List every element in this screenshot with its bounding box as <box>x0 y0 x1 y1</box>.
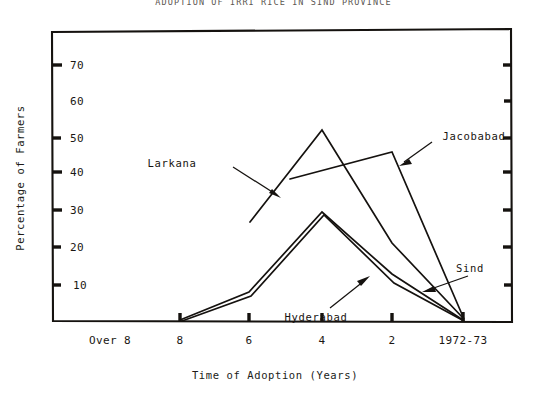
annotation-sind: Sind <box>422 262 484 292</box>
series-line-hyderabad <box>182 215 464 321</box>
x-tick-label-1972-73: 1972-73 <box>438 334 487 347</box>
x-axis-title: Time of Adoption (Years) <box>192 369 358 381</box>
plot-frame <box>52 29 512 322</box>
annotation-label-hyderabad: Hyderabad <box>284 311 347 323</box>
x-tick-label-2: 2 <box>388 334 395 347</box>
annotation-jacobabad: Jacobabad <box>399 130 506 166</box>
chart-figure: ADOPTION OF IRRI RICE IN SIND PROVINCE <box>0 0 547 406</box>
chart-canvas: 70 60 50 40 30 20 10 Over 8 8 6 4 2 1972… <box>0 0 547 406</box>
y-axis-title: Percentage of Farmers <box>14 105 26 250</box>
y-tick-labels: 70 60 50 40 30 20 10 <box>70 59 87 292</box>
arrowhead-sind <box>422 286 436 292</box>
arrowhead-jacobabad <box>399 159 412 166</box>
y-tick-label-40: 40 <box>70 166 84 179</box>
y-tick-label-50: 50 <box>70 132 84 145</box>
annotation-hyderabad: Hyderabad <box>284 276 370 323</box>
annotation-label-larkana: Larkana <box>147 157 196 169</box>
y-tick-label-20: 20 <box>70 241 84 254</box>
y-tick-label-30: 30 <box>70 204 84 217</box>
y-tick-label-70: 70 <box>70 59 84 72</box>
series-line-sind <box>180 212 463 320</box>
y-tick-label-60: 60 <box>70 95 84 108</box>
x-tick-labels: Over 8 8 6 4 2 1972-73 <box>89 334 488 347</box>
annotation-label-jacobabad: Jacobabad <box>442 130 505 142</box>
x-tick-label-4: 4 <box>318 334 325 347</box>
y-tick-label-10: 10 <box>73 279 87 292</box>
x-tick-label-8: 8 <box>176 334 183 347</box>
x-tick-label-6: 6 <box>245 334 252 347</box>
series-line-jacobabad <box>290 152 464 319</box>
annotation-larkana: Larkana <box>147 157 281 198</box>
annotation-label-sind: Sind <box>456 262 484 274</box>
x-tick-label-over-8: Over 8 <box>89 334 131 347</box>
